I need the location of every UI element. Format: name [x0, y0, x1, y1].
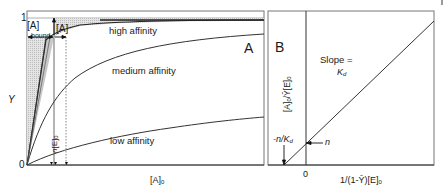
slope-text: Slope = — [320, 55, 353, 65]
free-ligand-label: [A] — [56, 24, 68, 34]
y-axis-label: Y — [8, 95, 15, 105]
slope-value: Kd — [337, 68, 346, 77]
n-e0-label: nn[E][E]0 — [51, 135, 59, 153]
panel-a-letter: A — [244, 41, 253, 55]
bound-label-sub: bound — [31, 32, 50, 39]
x-axis-label-a: [A]0 — [150, 176, 164, 185]
y-tick-1: 1 — [21, 13, 27, 23]
y-intercept-arrow — [306, 142, 323, 145]
x-axis-label-b: 1/(1-Ȳ)[E]0 — [340, 176, 382, 185]
y-axis-label-b: [A]0/Ȳ[E]0 — [283, 76, 292, 112]
panel-b-letter: B — [275, 40, 284, 54]
bound-label-main: [A] — [27, 20, 39, 31]
x-intercept-arrow — [283, 145, 286, 165]
y-tick-0: 0 — [19, 160, 25, 170]
label-high-affinity: high affinity — [109, 26, 157, 36]
x-intercept-label: -n/Kd — [273, 135, 293, 144]
label-medium-affinity: medium affinity — [112, 66, 176, 76]
bound-label: [A] — [27, 21, 39, 31]
x-tick-0-b: 0 — [303, 170, 308, 179]
label-low-affinity: low affinity — [110, 136, 154, 146]
y-intercept-label: n — [325, 138, 330, 147]
